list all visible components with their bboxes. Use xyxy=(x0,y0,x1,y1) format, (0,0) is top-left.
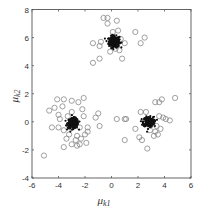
outlier-point xyxy=(133,126,138,131)
outlier-point xyxy=(69,142,74,147)
dense-point xyxy=(111,47,113,49)
dense-point xyxy=(104,37,106,39)
y-tick-label: -2 xyxy=(22,146,30,155)
dense-point xyxy=(64,120,66,122)
dense-point xyxy=(110,35,112,37)
dense-point xyxy=(141,118,143,120)
outlier-point xyxy=(133,29,138,34)
y-axis-label: μk2 xyxy=(8,89,22,103)
outlier-point xyxy=(81,114,86,119)
dense-point xyxy=(151,125,153,127)
outlier-point xyxy=(122,41,127,46)
outlier-point xyxy=(80,107,85,112)
dense-point xyxy=(156,119,158,121)
dense-point xyxy=(73,118,75,120)
outlier-point xyxy=(90,60,95,65)
dense-point xyxy=(75,124,77,126)
y-tick-label: 8 xyxy=(25,6,30,15)
scatter-chart: -6-4-20246 -4-202468 μk1 μk2 xyxy=(0,0,202,213)
outlier-point xyxy=(97,56,102,61)
outlier-point xyxy=(65,114,70,119)
outlier-point xyxy=(61,145,66,150)
y-tick-label: 0 xyxy=(25,118,30,127)
dense-point xyxy=(117,45,119,47)
dense-point xyxy=(147,121,149,123)
outlier-point xyxy=(97,123,102,128)
dense-point xyxy=(144,117,146,119)
y-tick-label: -4 xyxy=(22,174,30,183)
dense-point xyxy=(108,37,110,39)
outlier-point xyxy=(143,109,148,114)
outlier-point xyxy=(61,97,66,102)
dense-point xyxy=(117,38,119,40)
outlier-point xyxy=(120,56,125,61)
outlier-point xyxy=(47,108,52,113)
dense-point xyxy=(149,115,151,117)
x-tick-label: 2 xyxy=(136,181,141,190)
outlier-point xyxy=(55,97,60,102)
dense-point xyxy=(112,45,114,47)
outlier-point xyxy=(81,95,86,100)
dense-point xyxy=(111,37,113,39)
dense-point xyxy=(154,125,156,127)
outlier-point xyxy=(61,128,66,133)
outlier-point xyxy=(142,35,147,40)
dense-point xyxy=(118,36,120,38)
x-axis-label: μk1 xyxy=(96,194,110,208)
x-tick-label: -2 xyxy=(81,181,89,190)
dense-point xyxy=(146,131,148,133)
dense-point xyxy=(69,119,71,121)
outlier-point xyxy=(114,116,119,121)
outlier-point xyxy=(116,28,121,33)
dense-point xyxy=(154,120,156,122)
dense-point xyxy=(149,121,151,123)
outlier-point xyxy=(69,109,74,114)
dense-point xyxy=(108,42,110,44)
outlier-point xyxy=(105,15,110,20)
dense-point xyxy=(78,120,80,122)
dense-point xyxy=(68,125,70,127)
dense-point xyxy=(120,46,122,48)
dense-point xyxy=(140,120,142,122)
outlier-point xyxy=(56,125,61,130)
dense-point xyxy=(152,122,154,124)
outlier-point xyxy=(90,41,95,46)
outlier-point xyxy=(108,49,113,54)
y-tick-label: 2 xyxy=(25,90,30,99)
outlier-point xyxy=(78,136,83,141)
dense-point xyxy=(147,128,149,130)
outlier-point xyxy=(60,104,65,109)
dense-clusters xyxy=(64,34,158,133)
x-tick-label: 0 xyxy=(109,181,114,190)
outlier-point xyxy=(69,98,74,103)
outlier-point xyxy=(84,140,89,145)
x-tick-label: 6 xyxy=(189,181,194,190)
dense-point xyxy=(118,42,120,44)
outlier-point xyxy=(52,105,57,110)
dense-point xyxy=(117,40,119,42)
x-tick-label: -4 xyxy=(55,181,63,190)
outlier-point xyxy=(76,100,81,105)
outlier-point xyxy=(173,95,178,100)
y-tick-label: 6 xyxy=(25,34,30,43)
dense-point xyxy=(71,114,73,116)
dense-point xyxy=(115,34,117,36)
dense-point xyxy=(120,41,122,43)
dense-point xyxy=(72,128,74,130)
x-tick-label: 4 xyxy=(162,181,167,190)
dense-point xyxy=(74,116,76,118)
outlier-point xyxy=(49,125,54,130)
outlier-point xyxy=(158,126,163,131)
outlier-point xyxy=(41,153,46,158)
dense-point xyxy=(146,118,148,120)
dense-point xyxy=(152,116,154,118)
outlier-point xyxy=(145,146,150,151)
dense-point xyxy=(111,41,113,43)
outlier-point xyxy=(96,111,101,116)
outlier-point xyxy=(64,136,69,141)
outlier-point xyxy=(138,41,143,46)
dense-point xyxy=(114,42,116,44)
y-tick-label: 4 xyxy=(25,62,30,71)
x-tick-label: -6 xyxy=(28,181,36,190)
outlier-point xyxy=(114,18,119,23)
